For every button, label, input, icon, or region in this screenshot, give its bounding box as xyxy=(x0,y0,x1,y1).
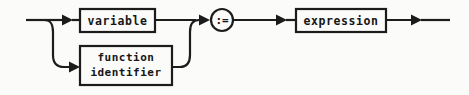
function-identifier-merge-rail xyxy=(172,20,199,67)
railroad-diagram-canvas: variable function identifier := expressi… xyxy=(0,0,469,95)
variable-box-label: variable xyxy=(87,14,147,28)
arrow-into-variable-icon xyxy=(62,15,73,26)
arrow-into-function-identifier-icon xyxy=(69,62,80,73)
railroad-diagram: variable function identifier := expressi… xyxy=(0,0,469,95)
arrow-into-assign-operator-icon xyxy=(199,15,210,26)
arrow-exit-icon xyxy=(411,15,422,26)
lower-branch-split-rail xyxy=(44,20,70,67)
expression-box-label: expression xyxy=(303,14,378,28)
function-identifier-box-label-line2: identifier xyxy=(90,66,161,79)
function-identifier-box-label-line1: function xyxy=(98,51,155,64)
arrow-into-expression-icon xyxy=(276,15,287,26)
assign-operator-label: := xyxy=(215,14,229,27)
